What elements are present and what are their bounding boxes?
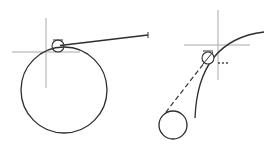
- diagram-canvas: [0, 0, 270, 159]
- large-circle: [21, 47, 107, 133]
- right-figure: [159, 10, 264, 139]
- deferred-tangent-snap-marker-icon: [202, 51, 214, 64]
- rubber-band-dashed-line: [166, 58, 208, 112]
- tangent-line: [60, 35, 148, 46]
- deferred-ellipsis-icon: [218, 62, 228, 64]
- tangent-snap-marker-icon: [52, 40, 64, 52]
- small-circle: [159, 111, 187, 139]
- left-figure: [12, 18, 148, 133]
